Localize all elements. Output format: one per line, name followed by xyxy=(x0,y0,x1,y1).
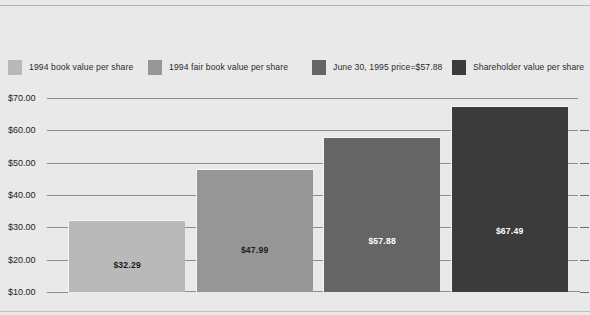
y-tick-mark-right-10 xyxy=(580,292,589,293)
legend-item-1[interactable]: 1994 fair book value per share xyxy=(148,58,288,76)
y-tick-label-40: $40.00 xyxy=(8,190,36,200)
y-tick-label-10: $10.00 xyxy=(8,287,36,297)
legend-swatch-icon-2 xyxy=(312,60,326,75)
bar-value-label-2: $57.88 xyxy=(324,236,440,246)
y-tick-stub-10 xyxy=(47,292,68,293)
y-tick-stub-30 xyxy=(47,227,68,228)
bar-chart-figure: 1994 book value per share 1994 fair book… xyxy=(0,0,590,315)
y-tick-stub-20 xyxy=(47,260,68,261)
bar-series: $32.29$47.99$57.88$67.49 xyxy=(68,98,578,292)
bar-value-label-3: $67.49 xyxy=(452,226,568,236)
y-tick-mark-right-20 xyxy=(580,260,589,261)
bar-rect-3: $67.49 xyxy=(451,106,568,292)
legend-swatch-icon-1 xyxy=(148,60,162,75)
plot-area: $32.29$47.99$57.88$67.49 xyxy=(68,98,578,292)
y-tick-mark-right-50 xyxy=(580,163,589,164)
y-tick-stub-70 xyxy=(47,98,68,99)
legend-swatch-icon-3 xyxy=(452,60,466,75)
legend-label-2: June 30, 1995 price=$57.88 xyxy=(333,62,442,72)
legend-swatch-icon-0 xyxy=(8,60,22,75)
bar-rect-0: $32.29 xyxy=(68,220,185,292)
y-tick-label-30: $30.00 xyxy=(8,222,36,232)
figure-top-border xyxy=(0,5,590,6)
legend-item-2[interactable]: June 30, 1995 price=$57.88 xyxy=(312,58,442,76)
bar-rect-1: $47.99 xyxy=(196,169,313,292)
figure-bottom-border xyxy=(0,311,590,312)
y-tick-stub-40 xyxy=(47,195,68,196)
y-tick-stub-60 xyxy=(47,130,68,131)
bar-rect-2: $57.88 xyxy=(323,137,440,292)
y-tick-label-70: $70.00 xyxy=(8,93,36,103)
legend-item-3[interactable]: Shareholder value per share xyxy=(452,58,584,76)
y-tick-label-60: $60.00 xyxy=(8,125,36,135)
y-tick-label-20: $20.00 xyxy=(8,255,36,265)
y-tick-mark-right-40 xyxy=(580,195,589,196)
y-tick-mark-right-60 xyxy=(580,130,589,131)
bar-value-label-0: $32.29 xyxy=(69,260,185,270)
legend-item-0[interactable]: 1994 book value per share xyxy=(8,58,133,76)
y-tick-stub-50 xyxy=(47,163,68,164)
legend-label-3: Shareholder value per share xyxy=(473,62,584,72)
y-tick-mark-right-30 xyxy=(580,227,589,228)
y-tick-label-50: $50.00 xyxy=(8,158,36,168)
legend-label-1: 1994 fair book value per share xyxy=(169,62,288,72)
legend-label-0: 1994 book value per share xyxy=(29,62,133,72)
bar-value-label-1: $47.99 xyxy=(197,245,313,255)
chart-legend: 1994 book value per share 1994 fair book… xyxy=(8,58,582,76)
